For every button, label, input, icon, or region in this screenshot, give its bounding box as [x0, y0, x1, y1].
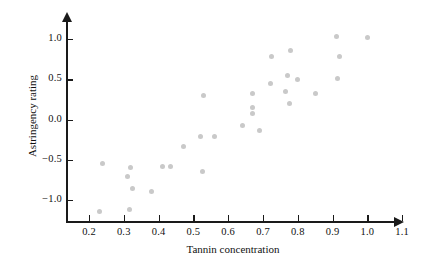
x-tick	[89, 215, 90, 221]
data-point	[149, 189, 154, 194]
plot-area: 0.20.30.40.50.60.70.80.91.01.1 −1.0−0.50…	[0, 0, 422, 268]
y-tick	[67, 160, 73, 161]
x-axis-title-text: Tannin concentration	[186, 243, 279, 255]
data-point	[97, 209, 102, 214]
x-tick-label: 0.2	[72, 226, 106, 237]
data-point	[250, 111, 255, 116]
scatter-plot-figure: 0.20.30.40.50.60.70.80.91.01.1 −1.0−0.50…	[0, 0, 422, 268]
data-point	[334, 34, 339, 39]
y-axis-arrow-icon	[62, 12, 72, 22]
y-tick-label: −1.0	[22, 193, 62, 204]
data-point	[285, 73, 290, 78]
x-tick-label: 1.1	[385, 226, 419, 237]
data-point	[250, 91, 255, 96]
data-point	[198, 134, 203, 139]
y-tick	[67, 120, 73, 121]
data-point	[337, 54, 342, 59]
x-axis-line	[66, 221, 396, 223]
y-axis-title-text: Astringency rating	[26, 75, 38, 157]
data-point	[250, 105, 255, 110]
x-tick-label: 0.4	[142, 226, 176, 237]
data-point	[168, 164, 173, 169]
data-point	[240, 123, 245, 128]
y-axis-title: Astringency rating	[26, 41, 38, 191]
data-point	[269, 54, 274, 59]
x-tick	[402, 215, 403, 221]
data-point	[128, 165, 133, 170]
data-point	[313, 91, 318, 96]
data-point	[125, 174, 130, 179]
data-point	[288, 48, 293, 53]
x-tick	[159, 215, 160, 221]
x-tick	[193, 215, 194, 221]
y-tick	[67, 39, 73, 40]
data-point	[335, 76, 340, 81]
data-point	[295, 77, 300, 82]
data-point	[200, 169, 205, 174]
x-tick-label: 0.7	[246, 226, 280, 237]
data-point	[365, 35, 370, 40]
x-tick	[298, 215, 299, 221]
data-point	[130, 186, 135, 191]
data-point	[100, 161, 105, 166]
x-tick	[228, 215, 229, 221]
x-tick-label: 0.9	[316, 226, 350, 237]
x-tick	[263, 215, 264, 221]
data-point	[268, 81, 273, 86]
x-tick	[333, 215, 334, 221]
data-point	[181, 144, 186, 149]
data-point	[283, 89, 288, 94]
x-tick-label: 0.3	[107, 226, 141, 237]
data-point	[127, 207, 132, 212]
x-axis-title: Tannin concentration	[0, 243, 422, 255]
data-point	[212, 134, 217, 139]
data-point	[160, 164, 165, 169]
x-tick-label: 0.5	[176, 226, 210, 237]
x-tick	[124, 215, 125, 221]
x-tick-label: 0.8	[281, 226, 315, 237]
data-point	[201, 93, 206, 98]
y-axis-line	[66, 22, 68, 222]
data-point	[287, 101, 292, 106]
y-tick	[67, 200, 73, 201]
x-tick	[367, 215, 368, 221]
x-tick-label: 1.0	[350, 226, 384, 237]
data-point	[257, 128, 262, 133]
y-tick	[67, 79, 73, 80]
x-tick-label: 0.6	[211, 226, 245, 237]
